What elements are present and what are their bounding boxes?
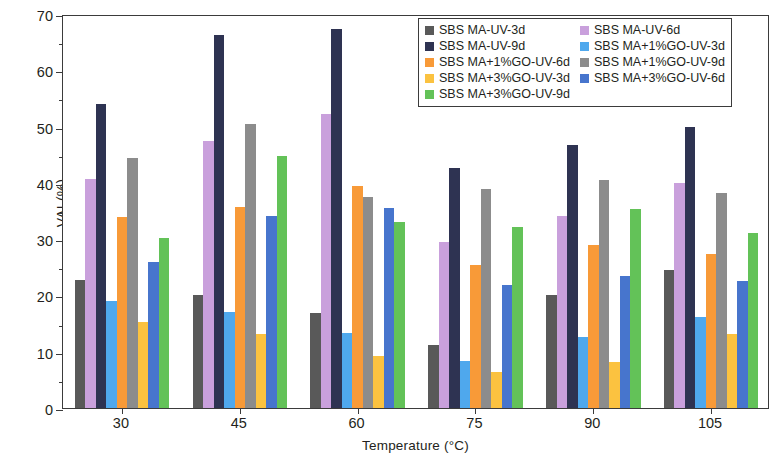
bar [384, 208, 395, 408]
legend-swatch-icon [580, 74, 589, 83]
bar [567, 145, 578, 408]
x-tick-label: 60 [349, 415, 365, 431]
legend-label: SBS MA+3%GO-UV-6d [594, 71, 725, 86]
legend-swatch-icon [425, 58, 434, 67]
legend-item[interactable]: SBS MA+1%GO-UV-6d [425, 55, 570, 70]
y-tick-mark [56, 185, 63, 186]
x-tick-label: 90 [584, 415, 600, 431]
y-tick-mark [56, 297, 63, 298]
bar [159, 238, 170, 408]
bar-group [193, 16, 288, 408]
x-tick-mark [358, 408, 359, 414]
legend-item[interactable]: SBS MA+1%GO-UV-9d [580, 55, 725, 70]
y-tick-mark [56, 410, 63, 411]
legend-label: SBS MA+1%GO-UV-6d [439, 55, 570, 70]
legend-item[interactable]: SBS MA-UV-9d [425, 39, 570, 54]
legend-swatch-icon [425, 26, 434, 35]
legend-swatch-icon [425, 42, 434, 51]
bar [428, 345, 439, 408]
x-tick-mark [122, 408, 123, 414]
bar-group [310, 16, 405, 408]
bar [256, 334, 267, 408]
bar-group [75, 16, 170, 408]
bar [224, 312, 235, 408]
y-tick-label: 60 [37, 64, 53, 80]
chart-legend: SBS MA-UV-3dSBS MA-UV-9dSBS MA+1%GO-UV-6… [418, 18, 732, 107]
legend-label: SBS MA+3%GO-UV-3d [439, 71, 570, 86]
y-tick-label: 70 [37, 8, 53, 24]
bar [439, 242, 450, 408]
bar [352, 186, 363, 408]
legend-label: SBS MA-UV-3d [439, 23, 525, 38]
bar [460, 361, 471, 408]
bar [214, 35, 225, 408]
x-tick-mark [711, 408, 712, 414]
bar [727, 334, 738, 408]
legend-label: SBS MA-UV-9d [439, 39, 525, 54]
x-tick-mark [593, 408, 594, 414]
bar [245, 124, 256, 408]
bar [449, 168, 460, 408]
bar [674, 183, 685, 408]
bar [85, 179, 96, 408]
x-tick-label: 75 [466, 415, 482, 431]
legend-item[interactable]: SBS MA-UV-3d [425, 23, 570, 38]
y-tick-label: 50 [37, 121, 53, 137]
bar [737, 281, 748, 408]
bar [193, 295, 204, 408]
y-tick-mark [56, 72, 63, 73]
legend-swatch-icon [425, 74, 434, 83]
bar [630, 209, 641, 408]
legend-swatch-icon [580, 58, 589, 67]
bar [96, 104, 107, 408]
y-tick-label: 10 [37, 346, 53, 362]
bar [470, 265, 481, 408]
bar [588, 245, 599, 408]
x-tick-label: 45 [231, 415, 247, 431]
bar [106, 301, 117, 408]
x-tick-mark [240, 408, 241, 414]
legend-item[interactable]: SBS MA+3%GO-UV-3d [425, 71, 570, 86]
legend-label: SBS MA+1%GO-UV-9d [594, 55, 725, 70]
bar [235, 207, 246, 408]
y-tick-label: 40 [37, 177, 53, 193]
bar [512, 227, 523, 408]
bar [310, 313, 321, 408]
y-tick-mark [56, 16, 63, 17]
bar [331, 29, 342, 408]
bar [748, 233, 759, 408]
bar [203, 141, 214, 408]
bar [706, 254, 717, 408]
legend-item[interactable]: SBS MA+1%GO-UV-3d [580, 39, 725, 54]
bar [277, 156, 288, 408]
y-tick-label: 20 [37, 289, 53, 305]
legend-label: SBS MA+1%GO-UV-3d [594, 39, 725, 54]
bar [342, 333, 353, 408]
bar-chart-figure: VAI (%) 010203040506070 3045607590105 Te… [0, 0, 777, 462]
bar [609, 362, 620, 408]
bar [138, 322, 149, 408]
bar [685, 127, 696, 408]
y-tick-mark [56, 241, 63, 242]
bar [373, 356, 384, 408]
bar [491, 372, 502, 408]
bar [75, 280, 86, 408]
legend-swatch-icon [580, 26, 589, 35]
bar [557, 216, 568, 408]
y-tick-label: 0 [45, 402, 53, 418]
x-axis-title: Temperature (°C) [62, 438, 769, 453]
y-tick-mark [56, 354, 63, 355]
bar [695, 317, 706, 408]
bar [620, 276, 631, 408]
x-tick-label: 105 [698, 415, 722, 431]
legend-item[interactable]: SBS MA-UV-6d [580, 23, 725, 38]
legend-item[interactable]: SBS MA+3%GO-UV-6d [580, 71, 725, 86]
legend-swatch-icon [580, 42, 589, 51]
bar [481, 189, 492, 409]
x-tick-label: 30 [113, 415, 129, 431]
bar [502, 285, 513, 408]
bar [148, 262, 159, 408]
y-tick-mark [56, 129, 63, 130]
bar [266, 216, 277, 408]
legend-item[interactable]: SBS MA+3%GO-UV-9d [425, 87, 570, 102]
